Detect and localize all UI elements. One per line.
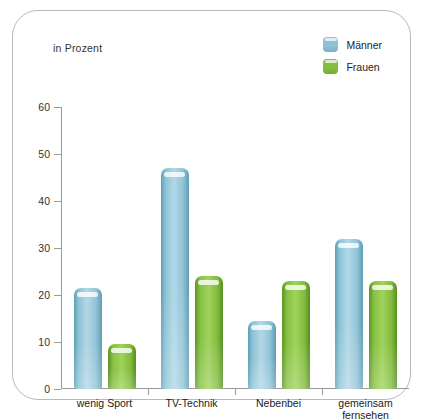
bar-männer-2 xyxy=(248,321,276,389)
y-tick-mark xyxy=(54,248,61,249)
bar-männer-1 xyxy=(161,168,189,389)
y-tick-label: 60 xyxy=(38,101,50,113)
y-tick-label: 40 xyxy=(38,195,50,207)
y-tick-label: 10 xyxy=(38,336,50,348)
legend-swatch-frauen xyxy=(323,59,338,74)
legend-item-maenner: Männer xyxy=(323,37,382,52)
bar-frauen-3 xyxy=(369,281,397,389)
legend-item-frauen: Frauen xyxy=(323,59,382,74)
bar-männer-0 xyxy=(74,288,102,389)
x-axis-label-1: TV-Technik xyxy=(166,397,218,409)
y-tick-mark xyxy=(54,154,61,155)
x-axis-label-0: wenig Sport xyxy=(77,397,132,409)
legend-label-frauen: Frauen xyxy=(346,61,379,73)
chart-legend: Männer Frauen xyxy=(323,37,382,74)
y-tick-label: 50 xyxy=(38,148,50,160)
bar-frauen-0 xyxy=(108,344,136,389)
y-tick-label: 20 xyxy=(38,289,50,301)
chart-frame: in Prozent Männer Frauen 0102030405060 w… xyxy=(12,10,411,400)
y-tick-mark xyxy=(54,107,61,108)
y-tick-mark xyxy=(54,295,61,296)
unit-label: in Prozent xyxy=(53,42,102,54)
x-axis-separator-3 xyxy=(322,389,323,395)
y-tick-mark xyxy=(54,342,61,343)
x-axis-label-2: Nebenbei xyxy=(256,397,301,409)
bar-männer-3 xyxy=(335,239,363,389)
bar-frauen-2 xyxy=(282,281,310,389)
y-tick-label: 30 xyxy=(38,242,50,254)
y-tick-mark xyxy=(54,201,61,202)
x-axis-separator-2 xyxy=(235,389,236,395)
plot-area: 0102030405060 wenig SportTV-TechnikNeben… xyxy=(61,107,409,389)
legend-swatch-maenner xyxy=(323,37,338,52)
y-tick-label: 0 xyxy=(44,383,50,395)
bar-frauen-1 xyxy=(195,276,223,389)
y-tick-mark xyxy=(54,389,61,390)
y-axis xyxy=(61,107,62,389)
legend-label-maenner: Männer xyxy=(346,39,382,51)
x-axis-separator-1 xyxy=(148,389,149,395)
x-axis-label-3: gemeinsam fernsehen xyxy=(338,397,392,420)
